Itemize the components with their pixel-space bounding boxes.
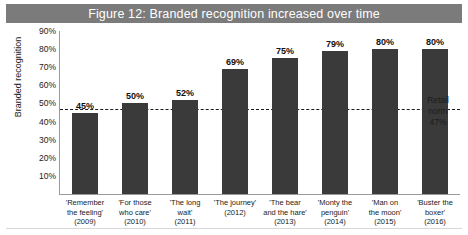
- page-title: Figure 12: Branded recognition increased…: [88, 7, 380, 21]
- x-axis-category-label: 'The longwait'(2011): [159, 198, 211, 227]
- category-label-line: (2009): [59, 217, 111, 227]
- bar: [222, 69, 248, 194]
- bar: [372, 49, 398, 194]
- category-label-line: the feeling': [59, 208, 111, 218]
- figure-title-banner: Figure 12: Branded recognition increased…: [6, 4, 462, 23]
- bar-value-label: 80%: [362, 37, 408, 47]
- y-axis-tick-label: 60%: [22, 80, 56, 90]
- x-axis-category-label: 'Rememberthe feeling'(2009): [59, 198, 111, 227]
- y-axis-tick-label: 30%: [22, 135, 56, 145]
- category-label-line: wait': [159, 208, 211, 218]
- bar: [322, 51, 348, 194]
- y-axis-tick-label: 20%: [22, 153, 56, 163]
- bar-value-label: 50%: [112, 91, 158, 101]
- category-label-line: 'Monty the: [309, 198, 361, 208]
- y-axis-tick-label: 90%: [22, 26, 56, 36]
- plot-area: 45%50%52%69%75%79%80%80%: [60, 31, 460, 194]
- x-axis-category-label: 'Monty thepenguin'(2014): [309, 198, 361, 227]
- bar-value-label: 79%: [312, 39, 358, 49]
- category-label-line: (2015): [359, 217, 411, 227]
- figure-branded-recognition: Figure 12: Branded recognition increased…: [0, 0, 468, 235]
- bar-value-label: 45%: [62, 101, 108, 111]
- category-label-line: (2014): [309, 217, 361, 227]
- category-label-line: 'The journey': [209, 198, 261, 208]
- category-label-line: and the hare': [259, 208, 311, 218]
- y-axis-tick-label: 70%: [22, 62, 56, 72]
- bar: [72, 113, 98, 195]
- category-label-line: (2013): [259, 217, 311, 227]
- category-label-line: (2016): [409, 217, 461, 227]
- retail-norm-reference-line: [60, 109, 460, 110]
- bar-value-label: 80%: [412, 37, 458, 47]
- figure-bottom-divider: [6, 228, 462, 229]
- y-axis-tick-label: 40%: [22, 117, 56, 127]
- y-axis-tick-labels: 90%80%70%60%50%40%30%20%10%: [19, 31, 56, 194]
- category-label-line: (2011): [159, 217, 211, 227]
- x-axis-category-label: 'Buster theboxer'(2016): [409, 198, 461, 227]
- bar-value-label: 69%: [212, 57, 258, 67]
- bar-value-label: 75%: [262, 46, 308, 56]
- category-label-line: (2010): [109, 217, 161, 227]
- category-label-line: (2012): [209, 208, 261, 218]
- category-label-line: boxer': [409, 208, 461, 218]
- x-axis-category-label: 'The journey'(2012): [209, 198, 261, 227]
- category-label-line: [209, 217, 261, 227]
- retail-norm-annotation: Retailnorm47%: [415, 95, 461, 128]
- category-label-line: who care': [109, 208, 161, 218]
- retail-norm-annotation-line: norm: [415, 106, 461, 117]
- y-axis-tick-label: 10%: [22, 171, 56, 181]
- bar-value-label: 52%: [162, 88, 208, 98]
- x-axis-category-label: 'Man onthe moon'(2015): [359, 198, 411, 227]
- category-label-line: 'The bear: [259, 198, 311, 208]
- x-axis-line: [59, 194, 460, 195]
- category-label-line: 'Man on: [359, 198, 411, 208]
- y-axis-tick-label: 80%: [22, 44, 56, 54]
- category-label-line: penguin': [309, 208, 361, 218]
- bar: [172, 100, 198, 194]
- x-axis-category-label: 'For thosewho care'(2010): [109, 198, 161, 227]
- category-label-line: 'The long: [159, 198, 211, 208]
- category-label-line: 'Buster the: [409, 198, 461, 208]
- bar: [272, 58, 298, 194]
- category-label-line: 'Remember: [59, 198, 111, 208]
- retail-norm-annotation-line: Retail: [415, 95, 461, 106]
- category-label-line: 'For those: [109, 198, 161, 208]
- y-axis-tick-label: 50%: [22, 98, 56, 108]
- x-axis-category-label: 'The bearand the hare'(2013): [259, 198, 311, 227]
- category-label-line: the moon': [359, 208, 411, 218]
- bar: [122, 103, 148, 194]
- retail-norm-annotation-line: 47%: [415, 117, 461, 128]
